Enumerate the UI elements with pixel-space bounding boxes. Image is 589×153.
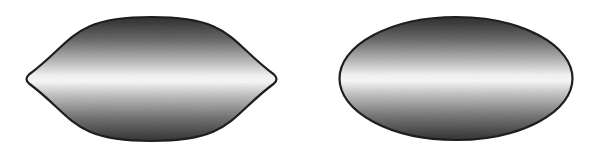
ellipse-shape-group <box>340 17 573 140</box>
figure-canvas <box>0 0 589 153</box>
